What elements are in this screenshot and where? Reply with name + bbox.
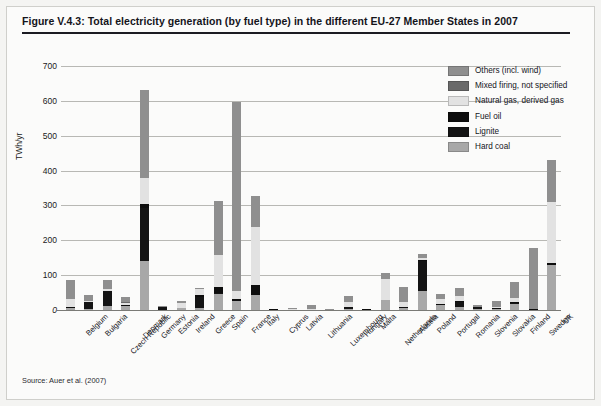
bar-group <box>492 301 501 310</box>
bar-segment <box>84 295 93 302</box>
bar-group <box>344 296 353 310</box>
bar-group <box>399 287 408 310</box>
bar-group <box>140 90 149 310</box>
bar-segment <box>473 307 482 308</box>
bar-segment <box>381 279 390 300</box>
bar-segment <box>140 204 149 208</box>
bar-segment <box>529 309 538 310</box>
legend-swatch-icon <box>448 127 469 137</box>
bar-segment <box>436 299 445 304</box>
bar-group <box>455 288 464 310</box>
figure-title-block: Figure V.4.3: Total electricity generati… <box>22 14 570 40</box>
x-axis-labels: BelgiumBulgariaCzech RepublicDenmarkGerm… <box>61 312 581 382</box>
bar-group <box>214 201 223 310</box>
bar-group <box>473 305 482 310</box>
legend-item[interactable]: Lignite <box>448 125 598 140</box>
bar-segment <box>195 288 204 289</box>
bar-group <box>547 160 556 310</box>
bar-segment <box>455 307 464 310</box>
bar-segment <box>177 303 186 308</box>
bar-segment <box>492 301 501 308</box>
bar-segment <box>399 287 408 301</box>
bar-segment <box>436 305 445 310</box>
bar-segment <box>214 293 223 294</box>
y-tick-label-300: 300 <box>43 200 57 210</box>
bar-segment <box>492 309 501 310</box>
bar-segment <box>251 227 260 285</box>
bar-segment <box>455 288 464 296</box>
title-underline <box>22 32 570 34</box>
bar-group <box>381 273 390 310</box>
bar-segment <box>455 301 464 307</box>
bar-segment <box>66 280 75 299</box>
bar-segment <box>269 309 278 310</box>
bar-segment <box>399 308 408 310</box>
bar-segment <box>103 280 112 289</box>
x-tick-label: Lithuania <box>326 312 354 340</box>
bar-group <box>325 309 334 310</box>
bar-segment <box>307 309 316 310</box>
bar-group <box>232 102 241 310</box>
bar-segment <box>177 301 186 303</box>
bar-segment <box>307 305 316 308</box>
legend-swatch-icon <box>448 66 469 76</box>
legend-label: Hard coal <box>475 140 510 153</box>
bar-segment <box>510 304 519 310</box>
bar-group <box>103 280 112 310</box>
y-axis-title: TWh/yr <box>14 133 24 160</box>
y-tick-label-700: 700 <box>43 61 57 71</box>
y-tick-label-600: 600 <box>43 96 57 106</box>
legend-item[interactable]: Fuel oil <box>448 110 598 125</box>
bar-segment <box>436 304 445 305</box>
bar-segment <box>121 305 130 310</box>
bar-segment <box>362 309 371 310</box>
bar-segment <box>232 102 241 291</box>
bar-group <box>195 288 204 310</box>
bar-group <box>269 309 278 310</box>
bar-segment <box>418 254 427 257</box>
legend-label: Lignite <box>475 125 499 138</box>
bar-segment <box>344 302 353 306</box>
bar-segment <box>547 263 556 265</box>
bar-group <box>436 294 445 310</box>
bar-group <box>251 196 260 310</box>
bar-segment <box>195 289 204 295</box>
y-axis-ticks: 0100200300400500600700 <box>16 66 57 316</box>
bar-segment <box>232 301 241 310</box>
bar-group <box>158 306 167 310</box>
bar-segment <box>232 299 241 301</box>
bar-group <box>121 297 130 310</box>
legend-item[interactable]: Hard coal <box>448 140 598 155</box>
y-tick-label-400: 400 <box>43 166 57 176</box>
bar-segment <box>84 301 93 302</box>
bar-group <box>288 308 297 310</box>
y-tick-label-500: 500 <box>43 131 57 141</box>
bar-segment <box>399 302 408 308</box>
bar-segment <box>344 307 353 309</box>
figure-container: Figure V.4.3: Total electricity generati… <box>0 0 601 406</box>
bar-segment <box>121 303 130 305</box>
bar-segment <box>121 302 130 303</box>
bar-segment <box>140 90 149 177</box>
bar-segment <box>214 294 223 310</box>
bar-segment <box>66 308 75 310</box>
bar-group <box>362 309 371 310</box>
bar-segment <box>251 196 260 226</box>
bar-segment <box>547 265 556 310</box>
legend-item[interactable]: Others (incl. wind) <box>448 64 598 79</box>
chart-legend: Others (incl. wind)Mixed firing, not spe… <box>448 64 598 155</box>
bar-segment <box>214 201 223 255</box>
bar-segment <box>103 289 112 291</box>
bar-segment <box>547 160 556 202</box>
source-note: Source: Auer et al. (2007) <box>22 376 106 385</box>
bar-segment <box>510 302 519 304</box>
legend-item[interactable]: Natural gas, derived gas <box>448 94 598 109</box>
legend-item[interactable]: Mixed firing, not specified <box>448 79 598 94</box>
bar-group <box>177 301 186 310</box>
bar-segment <box>418 260 427 261</box>
bar-segment <box>418 258 427 260</box>
bar-segment <box>66 299 75 307</box>
bar-segment <box>195 297 204 308</box>
bar-group <box>66 280 75 310</box>
bar-segment <box>140 261 149 310</box>
